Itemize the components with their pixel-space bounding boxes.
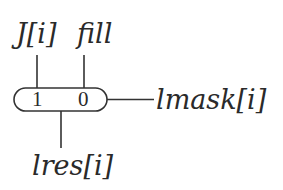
register-capsule <box>14 88 107 111</box>
diagram-canvas: J[i] fill 1 0 lmask[i] lres[i] <box>0 0 283 190</box>
lres-label: lres[i] <box>32 152 113 179</box>
register-cell-1: 0 <box>78 89 89 110</box>
lmask-label: lmask[i] <box>156 86 266 113</box>
fill-label: fill <box>77 20 112 47</box>
register-cell-0: 1 <box>32 89 43 110</box>
j-index-label: J[i] <box>16 20 57 47</box>
